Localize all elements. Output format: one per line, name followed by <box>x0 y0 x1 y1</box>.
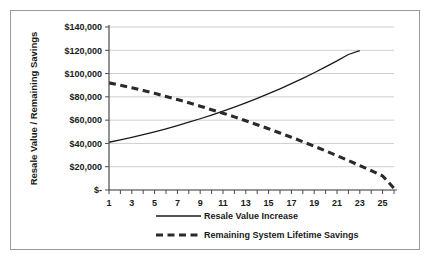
y-axis-title-text: Resale Value / Remaining Savings <box>28 32 39 186</box>
legend-label-1: Remaining System Lifetime Savings <box>204 230 359 240</box>
y-tick-label: $120,000 <box>64 46 102 56</box>
legend-label-0: Resale Value Increase <box>204 211 298 221</box>
chart-frame: $140,000$120,000$100,000$80,000$60,000$4… <box>10 10 420 250</box>
x-tick-label: 23 <box>355 198 365 208</box>
y-tick-label: $20,000 <box>69 162 102 172</box>
chart-legend: Resale Value IncreaseRemaining System Li… <box>156 211 359 240</box>
series-line-0 <box>109 51 360 143</box>
x-tick-label: 21 <box>332 198 342 208</box>
y-tick-label: $80,000 <box>69 92 102 102</box>
x-tick-label: 9 <box>198 198 203 208</box>
y-tick-label: $140,000 <box>64 22 102 32</box>
series-line-1 <box>109 83 394 188</box>
x-axis-tick-labels: 135791113151719212325 <box>106 198 387 208</box>
line-chart: $140,000$120,000$100,000$80,000$60,000$4… <box>11 11 419 249</box>
x-tick-label: 1 <box>106 198 111 208</box>
x-tick-label: 15 <box>264 198 274 208</box>
x-tick-label: 13 <box>241 198 251 208</box>
x-tick-label: 3 <box>129 198 134 208</box>
gridline-group <box>109 27 394 190</box>
y-tick-label: $40,000 <box>69 139 102 149</box>
x-tick-label: 25 <box>378 198 388 208</box>
y-tick-label: $60,000 <box>69 115 102 125</box>
y-axis-title: Resale Value / Remaining Savings <box>28 32 39 186</box>
x-tick-label: 5 <box>152 198 157 208</box>
series-group <box>109 51 394 189</box>
x-tick-label: 11 <box>218 198 228 208</box>
y-axis-tick-labels: $140,000$120,000$100,000$80,000$60,000$4… <box>64 22 102 195</box>
y-tick-label: $- <box>94 185 102 195</box>
x-tick-label: 7 <box>175 198 180 208</box>
x-tick-label: 19 <box>309 198 319 208</box>
x-tick-label: 17 <box>286 198 296 208</box>
y-tick-label: $100,000 <box>64 69 102 79</box>
